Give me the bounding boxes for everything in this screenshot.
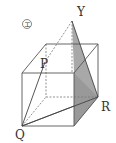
label-R: R — [101, 100, 111, 114]
label-Q: Q — [15, 128, 25, 142]
label-Y: Y — [76, 5, 86, 19]
label-P: P — [40, 57, 48, 71]
marker-label: エ — [24, 21, 31, 29]
cube-pyramid-diagram: エ Y P R Q — [0, 0, 116, 143]
